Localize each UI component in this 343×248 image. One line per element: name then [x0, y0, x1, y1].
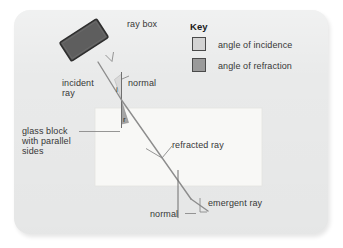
ray-box — [60, 19, 109, 61]
key-label-angle-of-incidence: angle of incidence — [218, 40, 292, 51]
key-swatch-angle-of-refraction — [192, 58, 206, 72]
label-refracted-ray: refracted ray — [172, 140, 224, 151]
key-swatch-angle-of-incidence — [192, 37, 206, 51]
label-glass-block-line3: sides — [22, 146, 44, 157]
label-ray-box: ray box — [127, 19, 157, 30]
diagram-canvas: ray box incident ray normal i r glass bl… — [0, 0, 343, 248]
label-incident-ray-line1: incident — [62, 78, 94, 89]
label-emergent-ray: emergent ray — [208, 198, 262, 209]
leader-ray-box — [106, 52, 114, 62]
label-angle-i: i — [116, 85, 118, 96]
label-angle-r: r — [123, 115, 126, 126]
label-normal-top: normal — [128, 78, 156, 89]
label-incident-ray-line2: ray — [62, 88, 75, 99]
key-label-angle-of-refraction: angle of refraction — [218, 61, 292, 72]
emergent-ray — [191, 199, 208, 211]
label-glass-block-line2: with parallel — [22, 136, 71, 147]
label-glass-block-line1: glass block — [22, 126, 68, 137]
key-title: Key — [190, 22, 208, 33]
label-normal-bottom: normal — [150, 209, 178, 220]
